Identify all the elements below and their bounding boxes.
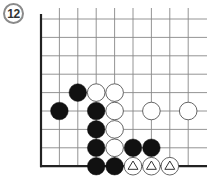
black-stone-disc (87, 157, 105, 175)
black-stone (124, 139, 142, 157)
white-stone (124, 157, 142, 175)
black-stone-disc (87, 102, 105, 120)
black-stone-disc (106, 157, 124, 175)
white-stone (87, 84, 105, 102)
black-stone-disc (87, 139, 105, 157)
white-stone (106, 84, 124, 102)
black-stone-disc (51, 102, 69, 120)
white-stone-disc (143, 102, 161, 120)
black-stone (69, 84, 87, 102)
white-stone (161, 157, 179, 175)
black-stone-disc (69, 84, 87, 102)
white-stone-disc (106, 102, 124, 120)
go-board (0, 0, 210, 182)
white-stone (143, 102, 161, 120)
black-stone (87, 157, 105, 175)
white-stone (179, 102, 197, 120)
black-stone-disc (124, 139, 142, 157)
white-stone-disc (106, 121, 124, 139)
white-stone-disc (106, 139, 124, 157)
white-stone (106, 121, 124, 139)
white-stone-disc (179, 102, 197, 120)
black-stone-disc (87, 121, 105, 139)
black-stone (87, 121, 105, 139)
black-stone (87, 102, 105, 120)
white-stone (106, 139, 124, 157)
white-stone-disc (106, 84, 124, 102)
black-stone-disc (143, 139, 161, 157)
black-stone (87, 139, 105, 157)
black-stone (106, 157, 124, 175)
black-stone (143, 139, 161, 157)
white-stone-disc (87, 84, 105, 102)
board-grid (40, 8, 207, 167)
white-stone (106, 102, 124, 120)
black-stone (51, 102, 69, 120)
white-stone (143, 157, 161, 175)
